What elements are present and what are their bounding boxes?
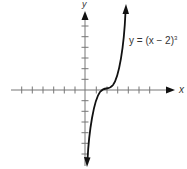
y-axis-arrow-icon (82, 11, 89, 20)
x-axis-label: x (178, 84, 185, 95)
cubic-curve (88, 12, 126, 160)
x-axis-arrow-icon (166, 87, 175, 94)
curve-top-arrow-icon (123, 4, 130, 14)
equation-label: y = (x − 2)3 (129, 35, 178, 46)
graph: x y y = (x − 2)3 (0, 0, 187, 169)
y-axis-label: y (81, 0, 87, 9)
equation-exponent: 3 (174, 35, 178, 41)
equation-text: y = (x − 2) (129, 35, 174, 46)
